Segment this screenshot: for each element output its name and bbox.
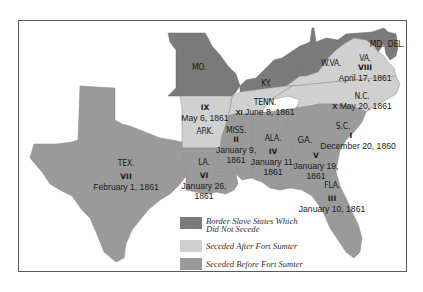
label-ala: ALA. IV January 11, 1861	[251, 133, 295, 177]
legend-seceded-after-label: Seceded After Fort Sumter	[206, 240, 297, 252]
la-order: VI	[182, 171, 227, 181]
label-tenn: TENN. XI June 8, 1861	[235, 97, 294, 118]
tex-abbr: TEX.	[93, 158, 158, 168]
label-fla: FLA. III January 10, 1861	[299, 180, 365, 214]
ala-order: IV	[251, 147, 295, 157]
legend-seceded-after: Seceded After Fort Sumter	[180, 240, 303, 252]
label-tex: TEX. VII February 1, 1861	[93, 158, 158, 192]
ga-order: V	[294, 151, 339, 161]
fla-date: January 10, 1861	[299, 204, 365, 214]
legend-seceded-before-label: Seceded Before Fort Sumter	[206, 258, 303, 270]
ark-order: IX	[181, 103, 228, 113]
label-ky: KY.	[261, 78, 271, 88]
ala-abbr: ALA.	[251, 133, 295, 143]
label-ga: V January 19, 1861	[294, 151, 339, 181]
fla-order: III	[299, 194, 365, 204]
ga-date-1: January 19,	[294, 161, 339, 171]
swatch-seceded-before	[180, 258, 202, 270]
swatch-seceded-after	[180, 240, 202, 252]
tenn-date: June 8, 1861	[245, 107, 295, 117]
ala-date-1: January 11,	[251, 157, 295, 167]
ala-date-2: 1861	[251, 167, 295, 177]
legend-border-slave: Border Slave States Which Did Not Secede	[180, 217, 303, 233]
legend-border-slave-line2: Did Not Secede	[206, 225, 298, 233]
swatch-border-slave	[180, 217, 202, 229]
label-la: LA. VI January 26, 1861	[182, 157, 227, 201]
tex-order: VII	[93, 172, 158, 182]
label-nc: N.C. X May 20, 1861	[332, 91, 391, 112]
va-date: April 17, 1861	[338, 73, 391, 83]
tex-date: February 1, 1861	[93, 182, 158, 192]
map-legend: Border Slave States Which Did Not Secede…	[180, 217, 303, 275]
nc-date: May 20, 1861	[340, 101, 392, 111]
tenn-abbr: TENN.	[235, 97, 294, 107]
la-abbr: LA.	[182, 157, 227, 167]
nc-abbr: N.C.	[332, 91, 391, 101]
label-del: DEL.	[388, 39, 405, 49]
label-md: MD.	[370, 39, 384, 49]
label-sc: S.C. I December 20, 1860	[290, 121, 395, 151]
tenn-order: XI	[235, 108, 242, 117]
sc-date: December 20, 1860	[320, 141, 395, 151]
sc-abbr: S.C.	[290, 121, 395, 131]
fla-abbr: FLA.	[299, 180, 365, 190]
la-date-1: January 26,	[182, 181, 227, 191]
nc-order: X	[332, 102, 337, 111]
legend-seceded-before: Seceded Before Fort Sumter	[180, 258, 303, 270]
label-va: VA. VIII April 17, 1861	[338, 53, 391, 83]
sc-order: I	[306, 131, 395, 141]
va-abbr: VA.	[338, 53, 391, 63]
la-date-2: 1861	[182, 191, 227, 201]
ark-date: May 6, 1861	[181, 113, 228, 123]
va-order: VIII	[338, 63, 391, 73]
label-mo: MO.	[192, 62, 206, 72]
